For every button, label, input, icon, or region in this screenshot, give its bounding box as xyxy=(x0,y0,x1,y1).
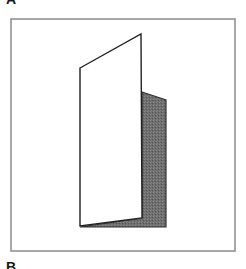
panel-label-b: B xyxy=(6,260,16,269)
figure-canvas: A B xyxy=(0,0,246,269)
front-panel xyxy=(80,34,142,226)
folded-panel-diagram xyxy=(0,0,246,269)
